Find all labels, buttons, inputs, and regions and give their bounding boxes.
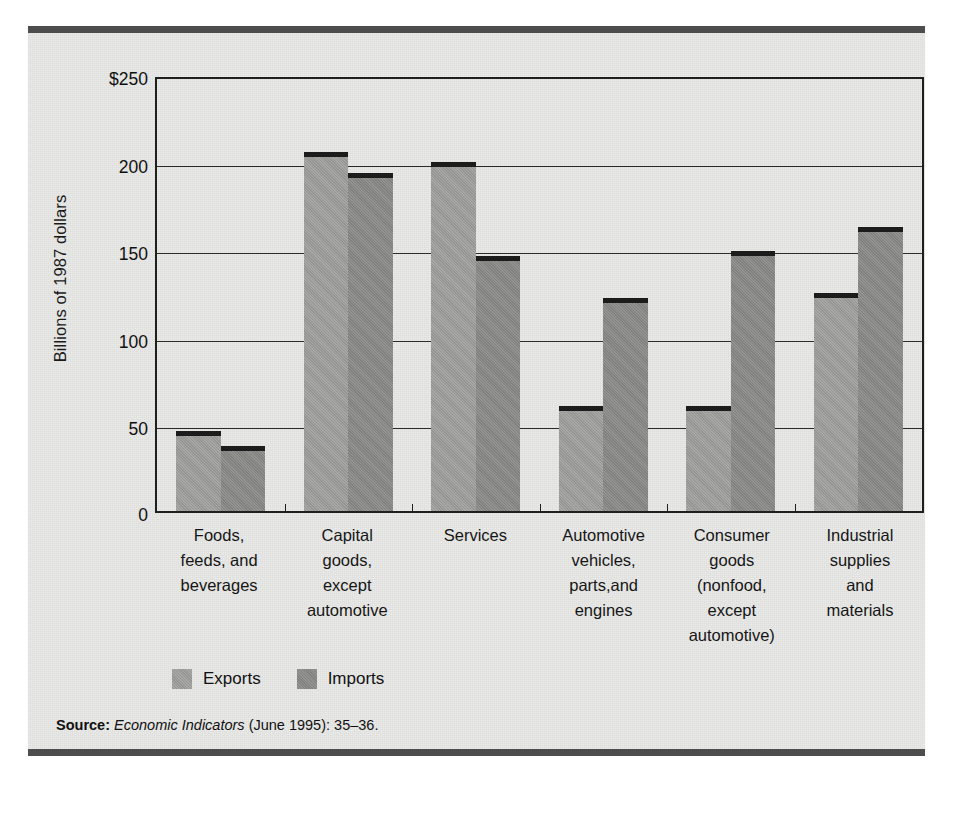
bar-cap [858, 227, 903, 232]
bar-exports[interactable] [814, 293, 859, 511]
category-label-line: and [798, 573, 922, 598]
y-axis-title: Billions of 1987 dollars [51, 129, 70, 429]
source-title: Economic Indicators [114, 717, 245, 733]
x-tick [795, 504, 796, 512]
bar-cap [603, 298, 648, 303]
category-label-line: vehicles, [542, 548, 666, 573]
y-tick-label: 100 [119, 331, 148, 352]
category-label-line: feeds, and [157, 548, 281, 573]
bar-exports[interactable] [176, 431, 221, 511]
x-axis-category-labels: Foods,feeds, andbeveragesCapitalgoods,ex… [155, 523, 924, 648]
category-label-line: Services [413, 523, 537, 548]
category-label-line: Capital [285, 523, 409, 548]
bar-imports[interactable] [348, 173, 393, 511]
legend-label: Exports [203, 669, 261, 689]
bar-cap [686, 406, 731, 411]
bar-group [285, 79, 413, 511]
source-note: Source: Economic Indicators (June 1995):… [56, 717, 378, 733]
bar-imports[interactable] [858, 227, 903, 511]
category-label-line: except [285, 573, 409, 598]
bar-exports[interactable] [304, 152, 349, 511]
source-prefix: Source: [56, 717, 110, 733]
category-label-line: engines [542, 598, 666, 623]
bar-imports[interactable] [603, 298, 648, 511]
y-tick-label: $250 [109, 69, 148, 90]
category-label-line: supplies [798, 548, 922, 573]
bar-series-container [157, 79, 922, 511]
category-label-line: automotive [285, 598, 409, 623]
category-label-line: Automotive [542, 523, 666, 548]
x-tick [540, 504, 541, 512]
category-label: Capitalgoods,exceptautomotive [283, 523, 411, 648]
bar-group [795, 79, 923, 511]
category-label-line: automotive) [670, 623, 794, 648]
bar-imports[interactable] [731, 251, 776, 511]
x-tick [285, 504, 286, 512]
category-label-line: Consumer [670, 523, 794, 548]
legend-item-exports[interactable]: Exports [172, 669, 261, 689]
category-label-line: goods, [285, 548, 409, 573]
category-label-line: parts,and [542, 573, 666, 598]
bar-exports[interactable] [431, 162, 476, 511]
bottom-rule [28, 749, 925, 756]
bar-cap [348, 173, 393, 178]
bar-cap [304, 152, 349, 157]
legend-swatch-icon [297, 669, 317, 689]
figure-panel: Billions of 1987 dollars 050100150200$25… [28, 26, 925, 756]
category-label-line: (nonfood, [670, 573, 794, 598]
chart-legend: ExportsImports [172, 669, 384, 689]
category-label-line: materials [798, 598, 922, 623]
bar-group [667, 79, 795, 511]
x-tick [667, 504, 668, 512]
bar-cap [176, 431, 221, 436]
bar-cap [814, 293, 859, 298]
top-rule [28, 26, 925, 33]
source-citation: (June 1995): 35–36. [249, 717, 379, 733]
bar-cap [731, 251, 776, 256]
y-tick-label: 50 [129, 418, 148, 439]
bar-cap [476, 256, 521, 261]
bar-group [412, 79, 540, 511]
category-label-line: except [670, 598, 794, 623]
bar-cap [221, 446, 266, 451]
bar-group [540, 79, 668, 511]
legend-item-imports[interactable]: Imports [297, 669, 385, 689]
y-tick-label: 200 [119, 157, 148, 178]
category-label-line: Industrial [798, 523, 922, 548]
category-label: Services [411, 523, 539, 648]
bar-exports[interactable] [559, 406, 604, 511]
legend-swatch-icon [172, 669, 192, 689]
bar-imports[interactable] [221, 446, 266, 511]
category-label-line: beverages [157, 573, 281, 598]
y-tick-label: 150 [119, 244, 148, 265]
bar-group [157, 79, 285, 511]
category-label: Foods,feeds, andbeverages [155, 523, 283, 648]
y-tick-label: 0 [138, 505, 148, 526]
category-label: Consumergoods(nonfood,exceptautomotive) [668, 523, 796, 648]
x-tick [412, 504, 413, 512]
bar-cap [431, 162, 476, 167]
category-label: Automotivevehicles,parts,andengines [540, 523, 668, 648]
bar-exports[interactable] [686, 406, 731, 511]
category-label-line: Foods, [157, 523, 281, 548]
legend-label: Imports [328, 669, 385, 689]
bar-imports[interactable] [476, 256, 521, 511]
plot-area: 050100150200$250 [155, 77, 924, 513]
bar-cap [559, 406, 604, 411]
category-label: Industrialsuppliesandmaterials [796, 523, 924, 648]
category-label-line: goods [670, 548, 794, 573]
